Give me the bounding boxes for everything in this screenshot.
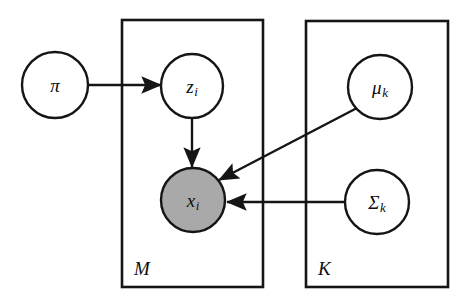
edge-group	[89, 85, 357, 202]
edge-mu-to-x	[219, 108, 357, 180]
plate-M-label: M	[133, 258, 151, 279]
plate-diagram-svg: M K π zi xi	[0, 0, 474, 303]
node-pi-label: π	[50, 75, 60, 96]
node-x-i[interactable]: xi	[161, 168, 225, 232]
node-mu-k[interactable]: μk	[348, 55, 412, 119]
plate-K-label: K	[317, 258, 332, 279]
node-pi[interactable]: π	[22, 52, 88, 118]
node-sigma-k[interactable]: Σk	[345, 170, 409, 234]
node-z-i[interactable]: zi	[161, 54, 223, 118]
node-group: π zi xi μk Σk	[22, 52, 412, 234]
figure-canvas: M K π zi xi	[0, 0, 474, 303]
